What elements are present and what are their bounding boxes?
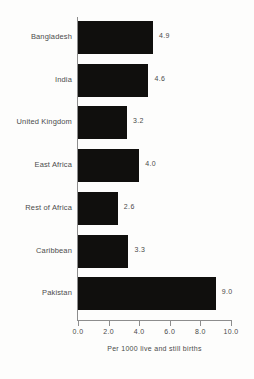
category-label: India: [0, 75, 72, 84]
x-axis-tick-label: 0.0: [73, 328, 84, 335]
x-axis-tick-label: 6.0: [164, 328, 175, 335]
x-axis-tick-0: [78, 321, 79, 326]
x-axis-tick-1: [109, 321, 110, 326]
bar-value-label: 2.6: [124, 203, 135, 210]
category-label: East Africa: [0, 160, 72, 169]
x-axis-tick-2: [139, 321, 140, 326]
bar: [78, 235, 128, 268]
bar: [78, 64, 148, 97]
bar-value-label: 4.6: [154, 75, 165, 82]
bar-row: East Africa4.0: [0, 149, 254, 182]
category-label: Caribbean: [0, 246, 72, 255]
category-label: Pakistan: [0, 288, 72, 297]
bar: [78, 192, 118, 225]
category-label: Bangladesh: [0, 32, 72, 41]
bar-row: India4.6: [0, 64, 254, 97]
category-label: United Kingdom: [0, 117, 72, 126]
x-axis-tick-label: 2.0: [103, 328, 114, 335]
bar-value-label: 3.3: [134, 246, 145, 253]
category-label: Rest of Africa: [0, 203, 72, 212]
bar-value-label: 3.2: [133, 117, 144, 124]
x-axis-tick-label: 8.0: [195, 328, 206, 335]
bar: [78, 277, 216, 310]
bar: [78, 21, 153, 54]
x-axis-tick-label: 4.0: [134, 328, 145, 335]
bar-row: Caribbean3.3: [0, 235, 254, 268]
bar-value-label: 9.0: [222, 288, 233, 295]
x-axis-line: [77, 320, 232, 321]
x-axis-title: Per 1000 live and still births: [77, 345, 232, 352]
bar-row: Rest of Africa2.6: [0, 192, 254, 225]
bar-value-label: 4.9: [159, 32, 170, 39]
bar-value-label: 4.0: [145, 160, 156, 167]
bar-row: United Kingdom3.2: [0, 106, 254, 139]
bar-row: Pakistan9.0: [0, 277, 254, 310]
bar-chart: 0.02.04.06.08.010.0 Bangladesh4.9India4.…: [0, 0, 254, 379]
bar: [78, 106, 127, 139]
bar-row: Bangladesh4.9: [0, 21, 254, 54]
x-axis-tick-4: [200, 321, 201, 326]
x-axis-tick-5: [231, 321, 232, 326]
x-axis-tick-label: 10.0: [223, 328, 238, 335]
x-axis-tick-3: [170, 321, 171, 326]
bar: [78, 149, 139, 182]
